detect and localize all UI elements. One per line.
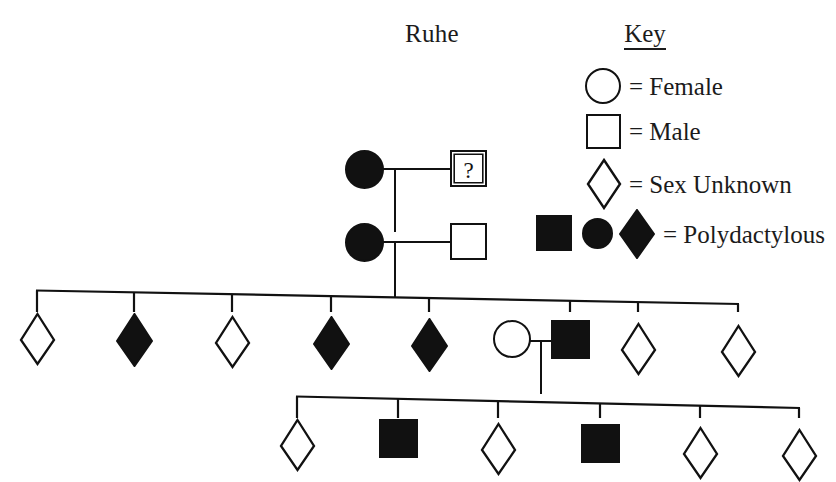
descent-line-III-to-IV [540,340,542,394]
individual-III-6[interactable] [493,320,531,358]
key-label-polydactylous: = Polydactylous [663,222,825,247]
individual-III-7[interactable] [551,320,590,359]
individual-IV-6[interactable] [781,428,818,482]
key-symbol-square-filled [536,215,572,251]
individual-III-9[interactable] [720,324,757,378]
pedigree-chart: Ruhe Key = Female = Male = Sex Unknown =… [0,0,836,482]
key-title: Key [600,20,690,48]
individual-I-2[interactable]: ? [450,150,487,187]
sibship-line-IV [0,392,836,418]
individual-III-1[interactable] [19,312,56,366]
individual-III-8[interactable] [620,322,657,376]
key-label-female: = Female [629,74,723,99]
key-label-sex-unknown: = Sex Unknown [629,172,792,197]
individual-II-1[interactable] [345,223,384,262]
individual-IV-1[interactable] [279,418,316,472]
individual-III-2[interactable] [116,313,153,367]
individual-IV-2[interactable] [379,419,418,458]
key-symbol-circle-filled [582,218,613,249]
individual-IV-5[interactable] [682,426,719,480]
individual-I-2-label: ? [452,159,485,182]
key-label-male: = Male [629,119,701,144]
key-symbol-square-open [586,114,621,149]
individual-I-1[interactable] [345,150,384,189]
individual-III-4[interactable] [313,316,350,370]
key-symbol-diamond-open [586,158,622,210]
individual-II-2[interactable] [450,223,487,260]
individual-III-5[interactable] [411,318,448,372]
key-title-text: Key [624,20,666,50]
key-symbol-diamond-filled [619,209,655,259]
key-symbol-circle-open [585,68,621,104]
individual-III-3[interactable] [214,315,251,369]
descent-line-I-to-II [394,168,396,232]
individual-IV-4[interactable] [581,424,620,463]
sibship-line-III [0,286,836,312]
key-legend: = Female = Male = Sex Unknown = Polydact… [585,62,835,252]
individual-IV-3[interactable] [480,422,517,476]
page-title: Ruhe [352,20,512,48]
